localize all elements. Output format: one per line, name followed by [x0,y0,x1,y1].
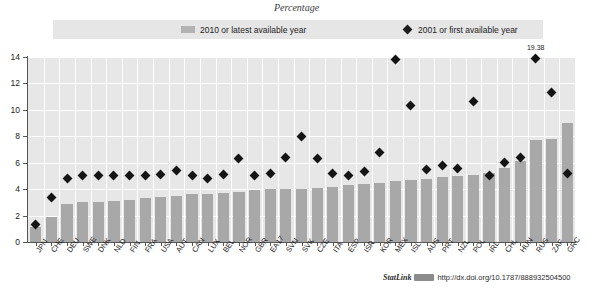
gridline-vertical [325,57,326,242]
diamond-che [46,192,56,202]
bar-fra [140,198,151,242]
bar-isl [405,180,416,242]
bar-chl [499,168,510,242]
gridline-vertical [450,57,451,242]
bar-can [186,194,197,242]
legend-item-bar: 2010 or latest available year [181,25,306,35]
bar-dnk [93,202,104,242]
diamond-lux [203,174,213,184]
bar-irl [483,173,494,242]
bar-svk [296,189,307,242]
gridline-vertical [106,57,107,242]
y-axis-tick [23,110,28,111]
y-axis-label: 2 [0,211,20,221]
bar-esp [343,185,354,242]
diamond-dnk [93,171,103,181]
diamond-isr [359,167,369,177]
bar-pol [468,175,479,242]
gridline-vertical [169,57,170,242]
diamond-ita [328,168,338,178]
gridline-vertical [528,57,529,242]
y-axis-tick [23,83,28,84]
bar-swatch-icon [181,26,195,33]
diamond-svk [297,131,307,141]
diamond-usa [156,170,166,180]
y-axis-tick [23,216,28,217]
gridline-horizontal [28,163,575,164]
bar-kor [374,183,385,242]
bar-fin [124,200,135,242]
y-axis-label: 10 [0,105,20,115]
gridline-vertical [512,57,513,242]
legend-label-bar: 2010 or latest available year [200,25,306,35]
gridline-vertical [153,57,154,242]
gridline-vertical [44,57,45,242]
diamond-fin [125,171,135,181]
y-axis-label: 6 [0,158,20,168]
gridline-vertical [184,57,185,242]
bar-isr [358,184,369,242]
gridline-vertical [262,57,263,242]
gridline-vertical [231,57,232,242]
statlink-label: StatLink [383,273,411,282]
gridline-vertical [122,57,123,242]
gridline-vertical [200,57,201,242]
gridline-vertical [559,57,560,242]
y-axis-tick [23,57,28,58]
gridline-horizontal [28,83,575,84]
diamond-zaf [547,88,557,98]
bar-hun [515,161,526,242]
bar-ea17 [265,189,276,242]
bar-nld [108,201,119,242]
diamond-chl [500,158,510,168]
bar-nor [233,192,244,242]
diamond-nzl [453,163,463,173]
diamond-svn [281,152,291,162]
bar-bel [218,193,229,242]
y-axis-label: 8 [0,131,20,141]
gridline-vertical [419,57,420,242]
diamond-bel [218,170,228,180]
gridline-vertical [59,57,60,242]
gridline-vertical [403,57,404,242]
bar-aut [171,196,182,242]
gridline-vertical [75,57,76,242]
y-axis-tick [23,136,28,137]
diamond-deu [62,174,72,184]
statlink-url[interactable]: http://dx.doi.org/10.1787/888932504500 [437,273,570,282]
gridline-horizontal [28,57,575,58]
gridline-vertical [372,57,373,242]
diamond-can [187,171,197,181]
diamond-swe [78,171,88,181]
gridline-vertical [309,57,310,242]
bar-swe [77,202,88,242]
gridline-vertical [294,57,295,242]
bar-rus [530,140,541,242]
bar-ita [327,187,338,243]
bar-zaf [546,139,557,242]
diamond-swatch-icon [403,25,413,35]
bar-lux [202,194,213,242]
bar-prt [437,177,448,242]
legend-item-diamond: 2001 or first available year [402,25,518,35]
diamond-kor [375,147,385,157]
bar-cze [312,188,323,242]
bar-aus [421,179,432,242]
gridline-vertical [137,57,138,242]
statlink-footer: StatLink http://dx.doi.org/10.1787/88893… [383,273,570,282]
bar-nzl [452,176,463,242]
bar-deu [61,204,72,242]
diamond-gbr [250,171,260,181]
diamond-nld [109,171,119,181]
bar-gbr [249,190,260,242]
y-axis-label: 14 [0,52,20,62]
gridline-horizontal [28,110,575,111]
diamond-aut [172,166,182,176]
y-axis-label: 0 [0,237,20,247]
diamond-esp [343,171,353,181]
bar-usa [155,197,166,242]
gridline-vertical [497,57,498,242]
y-axis-tick [23,189,28,190]
diamond-ea17 [265,168,275,178]
y-axis-label: 4 [0,184,20,194]
